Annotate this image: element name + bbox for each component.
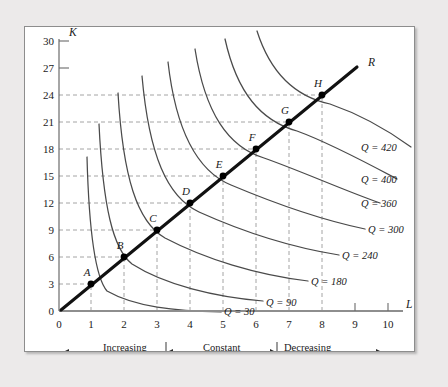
decreasing-returns-line1: Decreasing bbox=[284, 342, 332, 351]
point-dot-g bbox=[286, 119, 293, 126]
x-tick-3: 3 bbox=[154, 318, 160, 330]
x-tick-6: 6 bbox=[253, 318, 259, 330]
x-axis-ticks bbox=[355, 303, 388, 311]
x-tick-7: 7 bbox=[286, 318, 292, 330]
isoquant-curve-240 bbox=[142, 76, 339, 255]
y-tick-3: 3 bbox=[49, 278, 55, 290]
x-tick-0: 0 bbox=[56, 318, 62, 330]
x-tick-5: 5 bbox=[220, 318, 226, 330]
point-dot-a bbox=[88, 281, 95, 288]
point-label-e: E bbox=[215, 158, 223, 170]
y-axis-ticks bbox=[59, 41, 69, 68]
point-label-d: D bbox=[181, 185, 190, 197]
y-tick-15: 15 bbox=[43, 170, 55, 182]
isoquant-label-90: Q = 90 bbox=[266, 297, 297, 308]
y-tick-30: 30 bbox=[43, 35, 55, 47]
y-axis-label: K bbox=[68, 27, 78, 38]
x-tick-labels: 0 1 2 3 4 5 6 7 8 9 10 bbox=[56, 318, 394, 330]
point-dot-e bbox=[220, 173, 227, 180]
y-tick-18: 18 bbox=[43, 143, 55, 155]
x-tick-9: 9 bbox=[352, 318, 358, 330]
y-tick-24: 24 bbox=[43, 89, 55, 101]
point-label-c: C bbox=[149, 212, 157, 224]
isoquant-label-360: Q = 360 bbox=[361, 198, 397, 209]
point-dot-f bbox=[253, 146, 260, 153]
y-tick-9: 9 bbox=[49, 224, 55, 236]
constant-returns-line1: Constant bbox=[203, 342, 240, 351]
x-tick-1: 1 bbox=[88, 318, 94, 330]
increasing-returns-line1: Increasing bbox=[103, 342, 147, 351]
x-tick-10: 10 bbox=[383, 318, 395, 330]
y-tick-27: 27 bbox=[43, 62, 55, 74]
y-tick-21: 21 bbox=[43, 116, 54, 128]
point-dot-c bbox=[154, 227, 161, 234]
y-tick-0: 0 bbox=[49, 305, 55, 317]
point-label-g: G bbox=[281, 104, 289, 116]
isoquant-label-300: Q = 300 bbox=[368, 224, 404, 235]
isoquant-label-420: Q = 420 bbox=[361, 142, 397, 153]
isoquant-curve-300 bbox=[168, 62, 365, 229]
returns-annotation-bar: Increasing returns Constant returns Decr… bbox=[69, 342, 377, 351]
x-tick-8: 8 bbox=[319, 318, 325, 330]
x-tick-2: 2 bbox=[121, 318, 127, 330]
figure-panel: A B C D E F G H R K L 0 3 6 9 12 15 bbox=[24, 26, 415, 352]
isoquant-label-400: Q = 400 bbox=[361, 174, 397, 185]
isoquant-curves bbox=[87, 31, 411, 312]
point-dot-b bbox=[121, 254, 128, 261]
y-tick-6: 6 bbox=[49, 251, 55, 263]
isoquant-diagram: A B C D E F G H R K L 0 3 6 9 12 15 bbox=[25, 27, 414, 351]
ray-label-r: R bbox=[367, 56, 375, 68]
x-tick-4: 4 bbox=[187, 318, 193, 330]
point-label-b: B bbox=[117, 239, 124, 251]
y-tick-12: 12 bbox=[43, 197, 54, 209]
point-label-a: A bbox=[83, 266, 91, 278]
point-dot-d bbox=[187, 200, 194, 207]
x-axis-label: L bbox=[405, 298, 412, 310]
y-tick-labels: 0 3 6 9 12 15 18 21 24 27 30 bbox=[43, 35, 55, 317]
point-label-f: F bbox=[248, 131, 256, 143]
isoquant-label-180: Q = 180 bbox=[311, 276, 347, 287]
isoquant-label-240: Q = 240 bbox=[342, 250, 378, 261]
point-label-h: H bbox=[313, 77, 323, 89]
isoquant-label-30: Q = 30 bbox=[224, 306, 255, 317]
figure-page: A B C D E F G H R K L 0 3 6 9 12 15 bbox=[0, 0, 448, 387]
point-dot-h bbox=[319, 92, 326, 99]
